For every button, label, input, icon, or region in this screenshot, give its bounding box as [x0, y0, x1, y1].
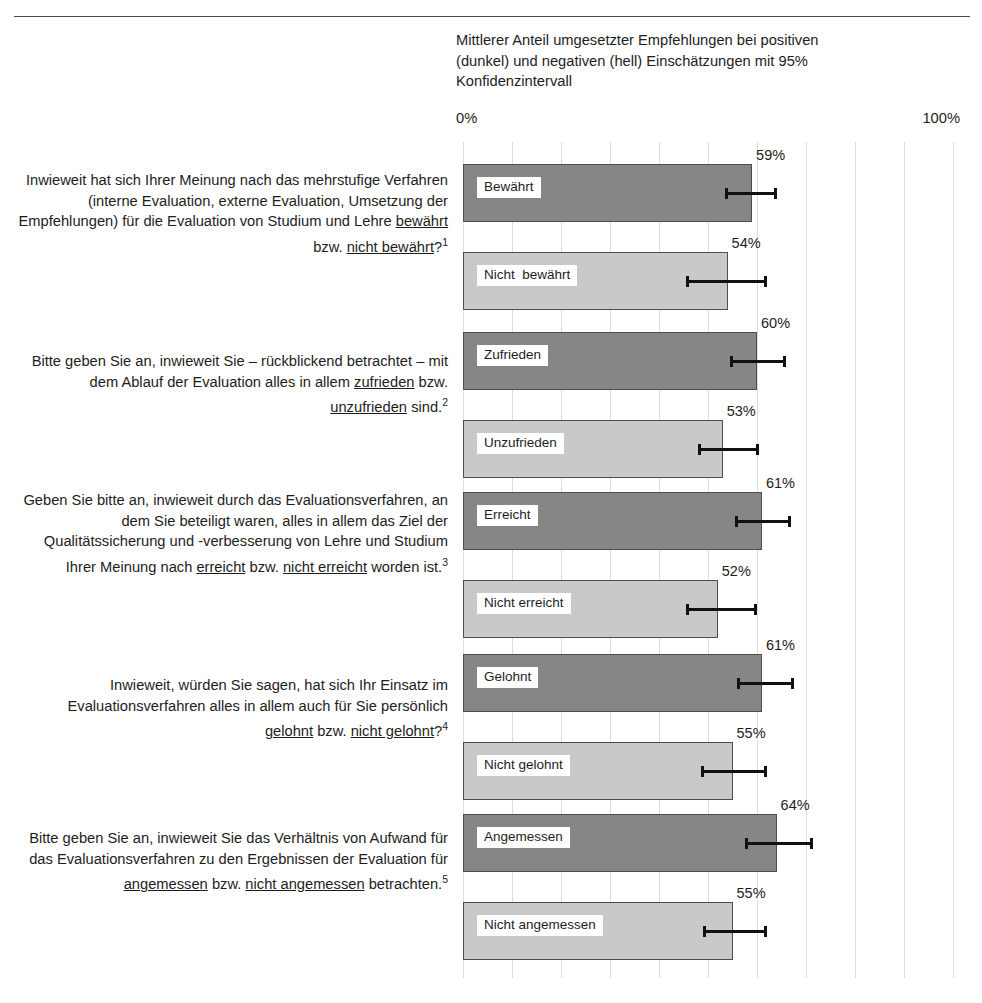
- question-footnote-marker: 1: [442, 236, 448, 248]
- chart-title: Mittlerer Anteil umgesetzter Empfehlunge…: [456, 30, 966, 92]
- bar-value-label: 53%: [727, 403, 756, 419]
- error-bar-cap-high: [791, 678, 794, 689]
- bar-row: Nicht bewährt54%: [463, 252, 953, 310]
- error-bar-stem: [735, 520, 791, 523]
- x-axis-end-labels: 0% 100%: [456, 110, 960, 130]
- bar-value-label: 60%: [761, 315, 790, 331]
- error-bar-stem: [686, 280, 767, 283]
- error-bar-ci95: [730, 356, 786, 367]
- chart-plot-area: Bewährt59%Nicht bewährt54%Zufrieden60%Un…: [463, 142, 953, 978]
- x-axis-min-label: 0%: [456, 110, 477, 126]
- question-text: bzw.: [415, 374, 448, 390]
- error-bar-ci95: [698, 444, 759, 455]
- bar-category-label: Angemessen: [477, 827, 570, 848]
- error-bar-cap-high: [764, 766, 767, 777]
- bar-row: Nicht erreicht52%: [463, 580, 953, 638]
- bar-row: Gelohnt61%: [463, 654, 953, 712]
- question-emphasis: angemessen: [124, 876, 208, 892]
- bar-value-label: 61%: [766, 475, 795, 491]
- error-bar-cap-low: [725, 188, 728, 199]
- question-emphasis: nicht erreicht: [283, 559, 367, 575]
- bar-row: Unzufrieden53%: [463, 420, 953, 478]
- bar-category-label: Nicht gelohnt: [477, 755, 570, 776]
- question-label-column: Inwieweit hat sich Ihrer Meinung nach da…: [8, 0, 448, 1003]
- error-bar-cap-low: [701, 766, 704, 777]
- error-bar-stem: [686, 608, 757, 611]
- error-bar-ci95: [725, 188, 776, 199]
- bar-value-label: 52%: [722, 563, 751, 579]
- x-axis-max-label: 100%: [922, 110, 960, 126]
- question-emphasis: gelohnt: [265, 723, 313, 739]
- question-text: bzw.: [313, 239, 346, 255]
- error-bar-cap-low: [686, 276, 689, 287]
- question-emphasis: nicht bewährt: [347, 239, 434, 255]
- bar-category-label: Nicht bewährt: [477, 265, 577, 286]
- error-bar-cap-high: [764, 276, 767, 287]
- question-emphasis: bewährt: [396, 213, 448, 229]
- question-text: worden ist.: [367, 559, 442, 575]
- question-text: bzw.: [208, 876, 246, 892]
- bar-category-label: Nicht angemessen: [477, 915, 603, 936]
- question-text: ?: [434, 723, 442, 739]
- bar-value-label: 61%: [766, 637, 795, 653]
- question-footnote-marker: 5: [442, 873, 448, 885]
- bar-category-label: Bewährt: [477, 177, 541, 198]
- bar-value-label: 55%: [737, 725, 766, 741]
- bar-category-label: Unzufrieden: [477, 433, 564, 454]
- error-bar-cap-high: [756, 444, 759, 455]
- question-text: sind.: [407, 399, 442, 415]
- error-bar-cap-low: [686, 604, 689, 615]
- question-label-5: Bitte geben Sie an, inwieweit Sie das Ve…: [16, 828, 448, 895]
- error-bar-cap-low: [698, 444, 701, 455]
- question-label-4: Inwieweit, würden Sie sagen, hat sich Ih…: [16, 675, 448, 742]
- question-text: Inwieweit hat sich Ihrer Meinung nach da…: [19, 172, 449, 229]
- error-bar-stem: [737, 682, 793, 685]
- error-bar-ci95: [745, 838, 814, 849]
- question-emphasis: nicht angemessen: [245, 876, 364, 892]
- error-bar-stem: [698, 448, 759, 451]
- question-footnote-marker: 3: [442, 556, 448, 568]
- bar-category-label: Zufrieden: [477, 345, 548, 366]
- gridline-100pct: [953, 142, 954, 978]
- chart-title-line-3: Konfidenzintervall: [456, 71, 966, 92]
- question-label-2: Bitte geben Sie an, inwieweit Sie – rück…: [16, 351, 448, 418]
- question-text: ?: [434, 239, 442, 255]
- question-label-1: Inwieweit hat sich Ihrer Meinung nach da…: [16, 170, 448, 257]
- error-bar-ci95: [701, 766, 767, 777]
- error-bar-cap-low: [703, 926, 706, 937]
- question-text: betrachten.: [365, 876, 443, 892]
- error-bar-ci95: [703, 926, 767, 937]
- bar-value-label: 59%: [756, 147, 785, 163]
- error-bar-cap-high: [764, 926, 767, 937]
- question-emphasis: nicht gelohnt: [351, 723, 434, 739]
- question-text: Inwieweit, würden Sie sagen, hat sich Ih…: [68, 677, 448, 714]
- error-bar-cap-high: [810, 838, 813, 849]
- bar-row: Erreicht61%: [463, 492, 953, 550]
- question-emphasis: zufrieden: [354, 374, 414, 390]
- error-bar-stem: [745, 842, 814, 845]
- error-bar-cap-high: [783, 356, 786, 367]
- error-bar-cap-low: [745, 838, 748, 849]
- error-bar-ci95: [735, 516, 791, 527]
- question-footnote-marker: 4: [442, 720, 448, 732]
- bar-row: Bewährt59%: [463, 164, 953, 222]
- chart-title-line-2: (dunkel) und negativen (hell) Einschätzu…: [456, 51, 966, 72]
- error-bar-cap-low: [737, 678, 740, 689]
- question-text: Bitte geben Sie an, inwieweit Sie das Ve…: [29, 830, 448, 867]
- bar-row: Angemessen64%: [463, 814, 953, 872]
- bar-row: Nicht angemessen55%: [463, 902, 953, 960]
- question-emphasis: unzufrieden: [330, 399, 407, 415]
- bar-value-label: 55%: [737, 885, 766, 901]
- bar-row: Nicht gelohnt55%: [463, 742, 953, 800]
- question-label-3: Geben Sie bitte an, inwieweit durch das …: [16, 490, 448, 577]
- bar-category-label: Gelohnt: [477, 667, 538, 688]
- bar-value-label: 64%: [781, 797, 810, 813]
- bar-category-label: Nicht erreicht: [477, 593, 571, 614]
- error-bar-ci95: [737, 678, 793, 689]
- error-bar-cap-high: [788, 516, 791, 527]
- chart-title-line-1: Mittlerer Anteil umgesetzter Empfehlunge…: [456, 30, 966, 51]
- error-bar-cap-high: [774, 188, 777, 199]
- error-bar-stem: [730, 360, 786, 363]
- error-bar-cap-low: [735, 516, 738, 527]
- error-bar-cap-high: [754, 604, 757, 615]
